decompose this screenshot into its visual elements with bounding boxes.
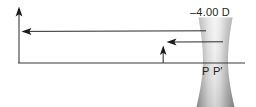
object-arrow: [16, 7, 23, 64]
principal-point-p-label: P: [202, 66, 209, 77]
ray-diagram-figure: –4.00 D P P′: [0, 0, 256, 107]
lens-power-label: –4.00 D: [190, 7, 230, 18]
principal-point-p-prime-label: P′: [213, 66, 222, 77]
image-arrow: [160, 46, 167, 64]
upper-ray: [22, 28, 207, 35]
